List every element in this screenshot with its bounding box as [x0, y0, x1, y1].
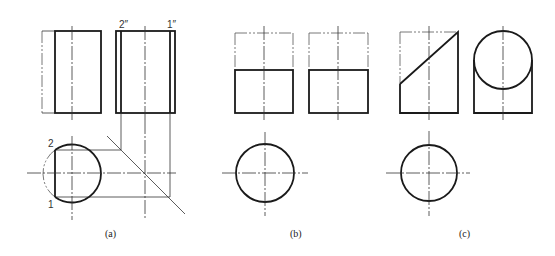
- label-1: 1: [48, 199, 54, 210]
- label-2: 2: [48, 138, 54, 149]
- panel-c-top-view: [386, 131, 470, 216]
- panel-b: (b): [222, 26, 368, 240]
- caption-c: (c): [459, 228, 470, 240]
- projection-diagram: 2″ 1″ 2 1 (a): [0, 0, 555, 256]
- panel-b-front-view: [235, 26, 293, 120]
- miter-line: [107, 136, 185, 214]
- panel-b-top-view: [222, 132, 308, 216]
- label-2-double-prime: 2″: [119, 19, 129, 30]
- panel-c-front-view: [400, 26, 458, 120]
- label-1-double-prime: 1″: [167, 19, 177, 30]
- panel-a-top-view: 2 1: [27, 136, 176, 220]
- panel-a-side-view: 2″ 1″: [116, 19, 177, 120]
- panel-b-side-view: [309, 26, 368, 120]
- caption-b: (b): [290, 228, 302, 240]
- panel-c-side-view: [474, 26, 532, 120]
- panel-a-projection-lines: [55, 113, 185, 220]
- panel-c: (c): [386, 26, 532, 240]
- caption-a: (a): [105, 228, 116, 240]
- panel-a-front-view: [42, 26, 101, 120]
- panel-a: 2″ 1″ 2 1 (a): [27, 19, 185, 240]
